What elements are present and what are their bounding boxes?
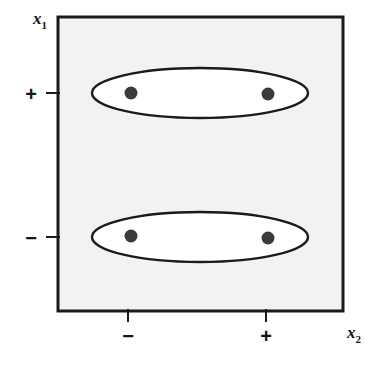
xor-scatter-figure: + − − + x1 x2: [0, 0, 379, 368]
data-point: [262, 232, 275, 245]
x-axis-label-subscript: 2: [356, 333, 362, 345]
y-tick-label-negative: −: [25, 227, 37, 249]
x-axis-label-base: x: [346, 323, 356, 342]
x-axis-label: x2: [346, 323, 362, 345]
data-point: [262, 88, 275, 101]
plot-area-background: [58, 17, 343, 311]
x-tick-label-positive: +: [260, 325, 272, 347]
y-axis-label-base: x: [32, 9, 42, 28]
x-tick-label-negative: −: [122, 325, 134, 347]
cluster-ellipse-bottom: [92, 212, 308, 262]
cluster-ellipse-top: [92, 68, 308, 118]
data-point: [125, 87, 138, 100]
figure-container: + − − + x1 x2: [0, 0, 379, 368]
y-tick-label-positive: +: [25, 83, 37, 105]
data-point: [125, 230, 138, 243]
y-axis-label: x1: [32, 9, 47, 31]
y-axis-label-subscript: 1: [42, 19, 48, 31]
